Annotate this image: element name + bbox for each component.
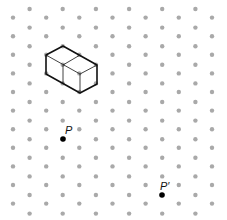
grid-dot: [160, 63, 164, 67]
grid-dot: [11, 108, 15, 112]
grid-dot: [143, 71, 147, 75]
grid-dot: [77, 201, 81, 205]
grid-dot: [11, 201, 15, 205]
grid-dot: [77, 34, 81, 38]
grid-dot: [160, 25, 164, 29]
grid-dot: [143, 34, 147, 38]
grid-dot: [193, 118, 197, 122]
point-P-marker: [60, 136, 66, 142]
grid-dot: [11, 53, 15, 57]
grid-dot: [177, 53, 181, 57]
grid-dot: [127, 81, 131, 85]
grid-dot: [127, 174, 131, 178]
grid-dot: [77, 164, 81, 168]
grid-dot: [210, 34, 214, 38]
grid-dot: [27, 44, 31, 48]
grid-dot: [160, 211, 164, 215]
grid-dot: [127, 137, 131, 141]
grid-dot: [143, 164, 147, 168]
grid-dot: [193, 137, 197, 141]
grid-dot: [160, 174, 164, 178]
grid-dot: [27, 63, 31, 67]
grid-dot: [143, 53, 147, 57]
grid-dot: [210, 15, 214, 19]
grid-dot: [94, 7, 98, 11]
grid-dot: [127, 100, 131, 104]
grid-dot: [160, 44, 164, 48]
grid-dot: [210, 146, 214, 150]
grid-dot: [44, 34, 48, 38]
point-P-label: P: [65, 124, 73, 136]
grid-dot: [110, 15, 114, 19]
grid-dot: [177, 164, 181, 168]
grid-dot: [11, 90, 15, 94]
grid-dot: [177, 108, 181, 112]
point-P-prime-label: P′: [160, 180, 170, 192]
grid-dot: [110, 90, 114, 94]
grid-dot: [210, 201, 214, 205]
grid-dot: [110, 201, 114, 205]
grid-dot: [11, 15, 15, 19]
grid-dot: [94, 100, 98, 104]
grid-dot: [27, 7, 31, 11]
dot-grid: [11, 7, 214, 216]
grid-dot: [210, 164, 214, 168]
grid-dot: [27, 118, 31, 122]
grid-dot: [160, 81, 164, 85]
grid-dot: [110, 127, 114, 131]
grid-dot: [177, 71, 181, 75]
diagram-canvas: PP′: [0, 0, 227, 220]
grid-dot: [44, 90, 48, 94]
grid-dot: [160, 156, 164, 160]
grid-dot: [77, 183, 81, 187]
grid-dot: [44, 201, 48, 205]
grid-dot: [94, 44, 98, 48]
grid-dot: [177, 201, 181, 205]
grid-dot: [193, 174, 197, 178]
grid-dot: [210, 127, 214, 131]
grid-dot: [193, 156, 197, 160]
grid-dot: [193, 193, 197, 197]
grid-dot: [127, 63, 131, 67]
grid-dot: [61, 211, 65, 215]
grid-dot: [160, 100, 164, 104]
grid-dot: [110, 146, 114, 150]
grid-dot: [210, 71, 214, 75]
grid-dot: [127, 211, 131, 215]
grid-dot: [61, 174, 65, 178]
grid-dot: [160, 118, 164, 122]
grid-dot: [110, 34, 114, 38]
grid-dot: [127, 44, 131, 48]
grid-dot: [193, 25, 197, 29]
grid-dot: [177, 183, 181, 187]
grid-dot: [44, 146, 48, 150]
grid-dot: [27, 193, 31, 197]
grid-dot: [177, 146, 181, 150]
grid-dot: [127, 7, 131, 11]
grid-dot: [193, 44, 197, 48]
grid-dot: [44, 127, 48, 131]
grid-dot: [11, 183, 15, 187]
isometric-dot-diagram: PP′: [0, 0, 227, 220]
grid-dot: [94, 118, 98, 122]
grid-dot: [27, 81, 31, 85]
grid-dot: [143, 127, 147, 131]
grid-dot: [193, 7, 197, 11]
grid-dot: [44, 164, 48, 168]
grid-dot: [110, 71, 114, 75]
grid-dot: [27, 137, 31, 141]
grid-dot: [177, 15, 181, 19]
grid-dot: [193, 63, 197, 67]
grid-dot: [61, 100, 65, 104]
grid-dot: [61, 193, 65, 197]
grid-dot: [77, 15, 81, 19]
grid-dot: [127, 25, 131, 29]
cube-edge: [63, 55, 80, 65]
grid-dot: [143, 183, 147, 187]
grid-dot: [177, 34, 181, 38]
grid-dot: [27, 25, 31, 29]
grid-dot: [127, 193, 131, 197]
grid-dot: [77, 146, 81, 150]
grid-dot: [61, 25, 65, 29]
grid-dot: [193, 211, 197, 215]
